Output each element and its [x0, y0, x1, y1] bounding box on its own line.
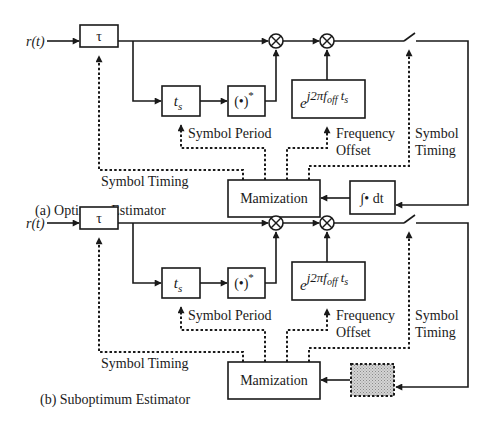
switch-output-line — [396, 41, 468, 205]
symbol-period-label: Symbol Period — [188, 126, 272, 141]
timing-label: Timing — [415, 325, 456, 340]
integrator-label: ∫• dt — [359, 191, 383, 207]
conjugate-to-multiplier — [265, 232, 276, 283]
multiplier-1-icon — [269, 34, 283, 48]
symbol-timing-label: Symbol Timing — [101, 174, 189, 189]
block-diagram-canvas: r(t) τ ts (•)* — [0, 0, 498, 443]
frequency-label: Frequency — [336, 126, 395, 141]
offset-label: Offset — [336, 325, 371, 340]
frequency-label: Frequency — [336, 308, 395, 323]
symbol-period-label: Symbol Period — [188, 308, 272, 323]
diagram-optimum-estimator: r(t) τ ts (•)* — [26, 25, 468, 219]
maximization-label: Mamization — [240, 373, 308, 388]
frequency-offset-to-exp — [287, 309, 327, 362]
input-signal-label: r(t) — [26, 34, 45, 50]
symbol-label: Symbol — [415, 308, 459, 323]
input-signal-label: r(t) — [26, 216, 45, 232]
multiplier-2-icon — [320, 34, 334, 48]
sampling-switch — [404, 33, 415, 41]
delay-block-label: τ — [96, 211, 102, 226]
symbol-timing-label: Symbol Timing — [101, 356, 189, 371]
offset-label: Offset — [336, 143, 371, 158]
conjugate-to-multiplier — [265, 50, 276, 101]
symbol-timing-to-delay — [99, 56, 243, 180]
branch-to-period-block — [133, 41, 161, 101]
sampling-switch — [404, 215, 415, 223]
diagram-b-caption: (b) Suboptimum Estimator — [40, 392, 190, 408]
diagram-suboptimum-estimator: r(t) τ ts (•)* ej2πfoff ts — [26, 207, 468, 408]
multiplier-2-icon — [320, 216, 334, 230]
switch-output-line — [396, 223, 468, 387]
branch-to-period-block — [133, 223, 161, 283]
frequency-offset-to-exp — [287, 127, 327, 180]
unspecified-filter-block — [351, 364, 394, 396]
timing-label: Timing — [415, 143, 456, 158]
delay-block-label: τ — [96, 29, 102, 44]
symbol-timing-to-delay — [99, 238, 243, 362]
maximization-label: Mamization — [240, 191, 308, 206]
multiplier-1-icon — [269, 216, 283, 230]
symbol-label: Symbol — [415, 126, 459, 141]
